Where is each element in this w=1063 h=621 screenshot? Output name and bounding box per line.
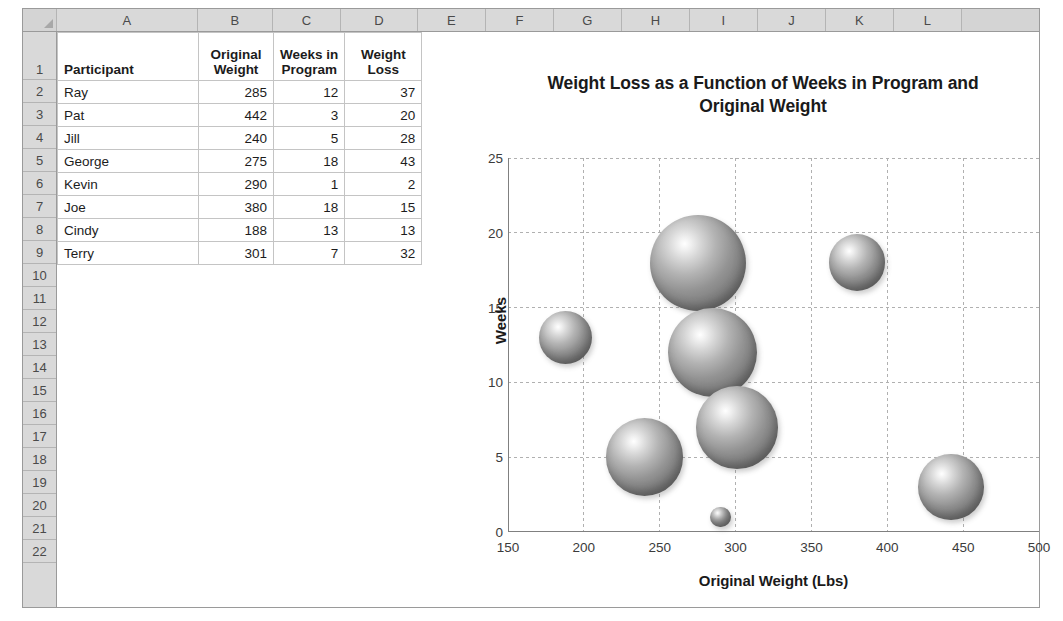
header-original-weight-line2: Weight	[205, 62, 267, 77]
row-header-1[interactable]: 1	[23, 32, 56, 80]
row-header-8[interactable]: 8	[23, 218, 56, 241]
bubble-chart[interactable]: Weight Loss as a Function of Weeks in Pr…	[463, 64, 1058, 609]
bubble-ray[interactable]	[668, 308, 757, 397]
cell-weeks-in-program[interactable]: 7	[274, 242, 345, 265]
row-header-17[interactable]: 17	[23, 425, 56, 448]
row-header-12[interactable]: 12	[23, 310, 56, 333]
row-header-5[interactable]: 5	[23, 149, 56, 172]
column-header-f[interactable]: F	[486, 9, 554, 31]
y-tick-label-20: 20	[469, 225, 503, 240]
row-header-22[interactable]: 22	[23, 540, 56, 563]
column-header-h[interactable]: H	[622, 9, 690, 31]
column-header-k[interactable]: K	[826, 9, 894, 31]
cell-weight-loss[interactable]: 32	[345, 242, 422, 265]
column-header-g[interactable]: G	[554, 9, 622, 31]
cell-participant[interactable]: Kevin	[58, 173, 199, 196]
cell-weeks-in-program[interactable]: 5	[274, 127, 345, 150]
column-header-a[interactable]: A	[57, 9, 198, 31]
chart-title-line2: Original Weight	[483, 95, 1043, 118]
cell-participant[interactable]: Ray	[58, 81, 199, 104]
row-header-20[interactable]: 20	[23, 494, 56, 517]
cell-original-weight[interactable]: 275	[199, 150, 274, 173]
header-participant-label: Participant	[64, 62, 134, 77]
column-header-row: ABCDEFGHIJKL	[23, 9, 1039, 32]
row-header-15[interactable]: 15	[23, 379, 56, 402]
row-header-2[interactable]: 2	[23, 80, 56, 103]
cell-weight-loss[interactable]: 28	[345, 127, 422, 150]
row-header-19[interactable]: 19	[23, 471, 56, 494]
cell-weeks-in-program[interactable]: 13	[274, 219, 345, 242]
header-original-weight-line1: Original	[205, 47, 267, 62]
cell-weeks-in-program[interactable]: 1	[274, 173, 345, 196]
cell-original-weight[interactable]: 442	[199, 104, 274, 127]
cell-original-weight[interactable]: 285	[199, 81, 274, 104]
column-header-c[interactable]: C	[273, 9, 341, 31]
header-weight-loss-line1: Weight	[351, 47, 415, 62]
cell-weeks-in-program[interactable]: 18	[274, 196, 345, 219]
table-row[interactable]: Pat442320	[58, 104, 422, 127]
bubble-george[interactable]	[650, 215, 746, 311]
grid-body: Participant Original Weight Weeks in Pro…	[57, 32, 1039, 607]
table-row[interactable]: Cindy1881313	[58, 219, 422, 242]
spreadsheet: ABCDEFGHIJKL 123456789101112131415161718…	[22, 8, 1040, 608]
bubble-jill[interactable]	[606, 418, 683, 495]
header-participant: Participant	[58, 33, 199, 81]
header-weight-loss-line2: Loss	[351, 62, 415, 77]
header-weight-loss: Weight Loss	[345, 33, 422, 81]
table-row[interactable]: Kevin29012	[58, 173, 422, 196]
cell-participant[interactable]: Terry	[58, 242, 199, 265]
cell-weeks-in-program[interactable]: 3	[274, 104, 345, 127]
table-row[interactable]: Jill240528	[58, 127, 422, 150]
row-header-14[interactable]: 14	[23, 356, 56, 379]
row-header-18[interactable]: 18	[23, 448, 56, 471]
cell-weight-loss[interactable]: 37	[345, 81, 422, 104]
cell-original-weight[interactable]: 301	[199, 242, 274, 265]
column-header-d[interactable]: D	[341, 9, 418, 31]
bubble-joe[interactable]	[829, 234, 886, 291]
cell-weight-loss[interactable]: 15	[345, 196, 422, 219]
row-header-13[interactable]: 13	[23, 333, 56, 356]
x-tick-label-400: 400	[862, 540, 912, 555]
bubble-kevin[interactable]	[710, 507, 731, 528]
cell-weight-loss[interactable]: 20	[345, 104, 422, 127]
cell-weight-loss[interactable]: 13	[345, 219, 422, 242]
row-header-6[interactable]: 6	[23, 172, 56, 195]
cell-weeks-in-program[interactable]: 18	[274, 150, 345, 173]
bubble-terry[interactable]	[696, 386, 779, 469]
cell-original-weight[interactable]: 290	[199, 173, 274, 196]
cell-weight-loss[interactable]: 43	[345, 150, 422, 173]
row-header-3[interactable]: 3	[23, 103, 56, 126]
column-header-e[interactable]: E	[418, 9, 486, 31]
table-row[interactable]: Terry301732	[58, 242, 422, 265]
x-tick-label-200: 200	[559, 540, 609, 555]
row-header-21[interactable]: 21	[23, 517, 56, 540]
row-header-9[interactable]: 9	[23, 241, 56, 264]
cell-weeks-in-program[interactable]: 12	[274, 81, 345, 104]
cell-participant[interactable]: Pat	[58, 104, 199, 127]
bubble-cindy[interactable]	[539, 311, 592, 364]
chart-title: Weight Loss as a Function of Weeks in Pr…	[483, 72, 1043, 119]
cell-participant[interactable]: Cindy	[58, 219, 199, 242]
table-row[interactable]: George2751843	[58, 150, 422, 173]
table-row[interactable]: Joe3801815	[58, 196, 422, 219]
cell-original-weight[interactable]: 188	[199, 219, 274, 242]
cell-original-weight[interactable]: 240	[199, 127, 274, 150]
table-row[interactable]: Ray2851237	[58, 81, 422, 104]
y-tick-label-25: 25	[469, 151, 503, 166]
cell-original-weight[interactable]: 380	[199, 196, 274, 219]
row-header-7[interactable]: 7	[23, 195, 56, 218]
bubble-pat[interactable]	[918, 454, 983, 519]
cell-participant[interactable]: George	[58, 150, 199, 173]
row-header-16[interactable]: 16	[23, 402, 56, 425]
row-header-10[interactable]: 10	[23, 264, 56, 287]
select-all-corner[interactable]	[23, 9, 57, 31]
column-header-j[interactable]: J	[758, 9, 826, 31]
row-header-11[interactable]: 11	[23, 287, 56, 310]
cell-weight-loss[interactable]: 2	[345, 173, 422, 196]
cell-participant[interactable]: Joe	[58, 196, 199, 219]
column-header-b[interactable]: B	[198, 9, 273, 31]
row-header-4[interactable]: 4	[23, 126, 56, 149]
column-header-i[interactable]: I	[690, 9, 758, 31]
cell-participant[interactable]: Jill	[58, 127, 199, 150]
column-header-l[interactable]: L	[894, 9, 962, 31]
